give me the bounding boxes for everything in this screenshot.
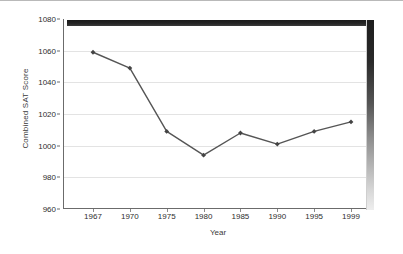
data-point-marker — [312, 129, 317, 134]
data-point-marker — [349, 120, 354, 125]
y-axis-tick-mark — [57, 19, 60, 20]
y-axis-tick-label: 1020 — [38, 110, 56, 119]
y-axis-tick-mark — [57, 82, 60, 83]
x-axis-tick-labels: 19671970197519801985199019951999 — [63, 210, 373, 226]
x-axis-title: Year — [63, 228, 373, 237]
plot-right-shadow-decoration — [367, 20, 374, 210]
x-axis-tick-label: 1999 — [342, 212, 360, 221]
x-axis-tick-label: 1967 — [84, 212, 102, 221]
y-axis-tick-label: 980 — [43, 173, 56, 182]
y-axis-title-text: Combined SAT Score — [21, 68, 30, 148]
y-axis-tick-label: 1080 — [38, 15, 56, 24]
data-point-marker — [91, 50, 96, 55]
x-axis-tick-label: 1975 — [158, 212, 176, 221]
y-axis-tick-label: 960 — [43, 205, 56, 214]
plot-top-bar-decoration — [67, 20, 373, 26]
y-axis-tick-mark — [57, 209, 60, 210]
y-axis-tick-mark — [57, 145, 60, 146]
x-axis-tick-label: 1985 — [232, 212, 250, 221]
y-axis-tick-mark — [57, 114, 60, 115]
sat-score-line-chart: Combined SAT Score 960980100010201040106… — [0, 0, 403, 254]
y-axis-tick-label: 1060 — [38, 46, 56, 55]
x-axis-tick-label: 1980 — [195, 212, 213, 221]
y-axis-tick-mark — [57, 50, 60, 51]
data-point-marker — [275, 142, 280, 147]
data-series-line — [63, 19, 373, 209]
plot-area — [63, 19, 373, 209]
y-axis-tick-mark — [57, 177, 60, 178]
x-axis-tick-label: 1970 — [121, 212, 139, 221]
x-axis-tick-label: 1990 — [268, 212, 286, 221]
x-axis-tick-label: 1995 — [305, 212, 323, 221]
y-axis-tick-labels: 96098010001020104010601080 — [30, 19, 60, 209]
y-axis-tick-label: 1000 — [38, 141, 56, 150]
y-axis-tick-label: 1040 — [38, 78, 56, 87]
